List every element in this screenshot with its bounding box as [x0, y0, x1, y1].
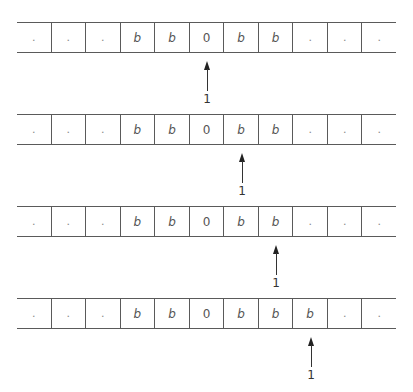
tape-cell: . [52, 207, 87, 236]
tape-cell: b [224, 115, 259, 144]
tape-cell: . [328, 207, 363, 236]
tape-cell: 0 [190, 23, 225, 52]
tape-cell: b [121, 299, 156, 328]
tape-cell: . [52, 115, 87, 144]
tape-cell: . [17, 207, 52, 236]
arrow-shaft [276, 253, 277, 275]
arrow-shaft [242, 161, 243, 183]
tape-cell: . [17, 115, 52, 144]
state-label: 1 [270, 276, 282, 290]
tape-cell: b [259, 23, 294, 52]
arrow-shaft [207, 69, 208, 91]
tape-cell: . [293, 207, 328, 236]
tape-cell: b [155, 207, 190, 236]
tape-cell: b [293, 299, 328, 328]
tape-cell: b [121, 23, 156, 52]
tape: . . . b b 0 b b . . . [17, 114, 396, 145]
tape: . . . b b 0 b b . . . [17, 206, 396, 237]
tape-cell: . [328, 115, 363, 144]
arrow-shaft [311, 345, 312, 367]
tape-cell: 0 [190, 115, 225, 144]
state-label: 1 [236, 184, 248, 198]
tape-cell: . [328, 23, 363, 52]
tape-cell: . [293, 115, 328, 144]
tape-head-pointer: 1 [236, 153, 248, 201]
tape-head-pointer: 1 [305, 337, 317, 385]
tape-step-2: . . . b b 0 b b . . . 1 [0, 114, 413, 206]
state-label: 1 [305, 368, 317, 382]
tape-head-pointer: 1 [270, 245, 282, 293]
tape-cell: . [52, 23, 87, 52]
tape: . . . b b 0 b b . . . [17, 22, 396, 53]
tape-cell: . [52, 299, 87, 328]
tape-cell: b [259, 115, 294, 144]
tape-step-3: . . . b b 0 b b . . . 1 [0, 206, 413, 298]
tape-cell: . [362, 115, 396, 144]
tape-cell: . [17, 299, 52, 328]
tape-cell: b [224, 23, 259, 52]
tape-head-pointer: 1 [201, 61, 213, 109]
tape-step-4: . . . b b 0 b b b . . 1 [0, 298, 413, 390]
tape-cell: . [86, 115, 121, 144]
tape-cell: . [328, 299, 363, 328]
tape-cell: . [86, 23, 121, 52]
tape-cell: b [155, 23, 190, 52]
tape-cell: . [362, 23, 396, 52]
state-label: 1 [201, 92, 213, 106]
tape: . . . b b 0 b b b . . [17, 298, 396, 329]
tape-cell: b [259, 207, 294, 236]
tape-cell: b [121, 207, 156, 236]
tape-cell: b [224, 207, 259, 236]
tape-cell: b [121, 115, 156, 144]
tape-cell: . [362, 207, 396, 236]
tape-cell: 0 [190, 299, 225, 328]
tape-cell: . [293, 23, 328, 52]
tape-cell: . [17, 23, 52, 52]
tape-cell: b [224, 299, 259, 328]
tape-cell: . [86, 299, 121, 328]
tape-cell: b [155, 115, 190, 144]
tape-step-1: . . . b b 0 b b . . . 1 [0, 22, 413, 114]
tape-cell: b [155, 299, 190, 328]
tape-cell: . [362, 299, 396, 328]
tape-cell: b [259, 299, 294, 328]
tape-cell: 0 [190, 207, 225, 236]
tape-cell: . [86, 207, 121, 236]
